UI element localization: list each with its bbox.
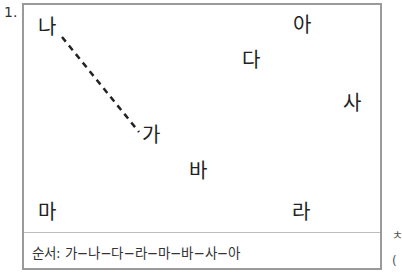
label-sa: 사 bbox=[343, 93, 361, 113]
label-da: 다 bbox=[242, 50, 260, 70]
label-ma: 마 bbox=[38, 202, 56, 222]
label-ra: 라 bbox=[292, 202, 310, 222]
label-a: 아 bbox=[293, 15, 311, 35]
label-ba: 바 bbox=[189, 161, 207, 181]
diagram-box: 나 아 다 사 가 바 마 라 순서: 가−나−다−라−마−바−사−아 bbox=[22, 3, 382, 270]
label-ga: 가 bbox=[142, 125, 160, 145]
label-na: 나 bbox=[38, 17, 56, 37]
problem-number: 1. bbox=[4, 4, 17, 20]
divider bbox=[24, 232, 380, 233]
order-text: 순서: 가−나−다−라−마−바−사−아 bbox=[32, 242, 240, 262]
cutoff-text-2: ( bbox=[392, 254, 397, 268]
cutoff-text-1: ㅊ bbox=[392, 226, 402, 243]
dashed-connector bbox=[24, 5, 380, 232]
